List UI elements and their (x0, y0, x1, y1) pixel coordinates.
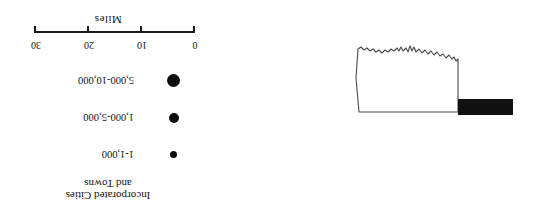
legend-title-line-1: Incorporated Cities (8, 190, 208, 202)
scale-bar: 0 10 20 30 Miles (8, 6, 208, 52)
legend-item-label: 5,000-10,000 (78, 76, 140, 87)
circle-symbol-icon (169, 113, 179, 123)
legend-item-small: 1-1,000 (8, 142, 208, 168)
legend-symbol-cell (140, 75, 208, 88)
scale-bar-tick (35, 26, 37, 33)
legend-title: Incorporated Cities and Towns (8, 178, 208, 202)
scale-bar-units-label: Miles (8, 14, 208, 26)
circle-symbol-icon (171, 152, 178, 159)
scale-bar-tick (141, 26, 143, 33)
legend-item-label: 1-1,000 (102, 150, 140, 161)
scale-bar-tick (194, 26, 196, 33)
scale-bar-tick-label: 0 (181, 40, 209, 51)
filled-corridor-bar (458, 99, 513, 115)
legend-symbol-cell (140, 113, 208, 123)
scale-bar-tick-label: 30 (22, 40, 50, 51)
map-outline-svg (340, 18, 550, 148)
legend-symbol-list: 1-1,000 1,000-5,000 5,000-10,000 (8, 60, 208, 168)
legend-item-medium: 1,000-5,000 (8, 105, 208, 131)
circle-symbol-icon (168, 75, 181, 88)
scale-bar-tick-label: 10 (128, 40, 156, 51)
legend-symbol-cell (140, 152, 208, 159)
legend-item-label: 1,000-5,000 (83, 113, 140, 124)
scale-bar-line (35, 31, 195, 33)
map-legend-figure: Incorporated Cities and Towns 1-1,000 1,… (0, 0, 558, 205)
legend-title-line-2: and Towns (8, 178, 208, 190)
scale-bar-tick-label: 20 (75, 40, 103, 51)
state-outline-path (356, 46, 458, 112)
scale-bar-tick (88, 26, 90, 33)
legend-item-large: 5,000-10,000 (8, 68, 208, 94)
legend-panel: Incorporated Cities and Towns 1-1,000 1,… (8, 4, 208, 202)
map-graphic (340, 18, 550, 148)
